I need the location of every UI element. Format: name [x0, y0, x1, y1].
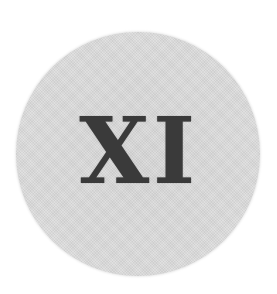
- roman-numeral-badge: XI: [16, 32, 260, 276]
- roman-numeral-text: XI: [79, 105, 199, 197]
